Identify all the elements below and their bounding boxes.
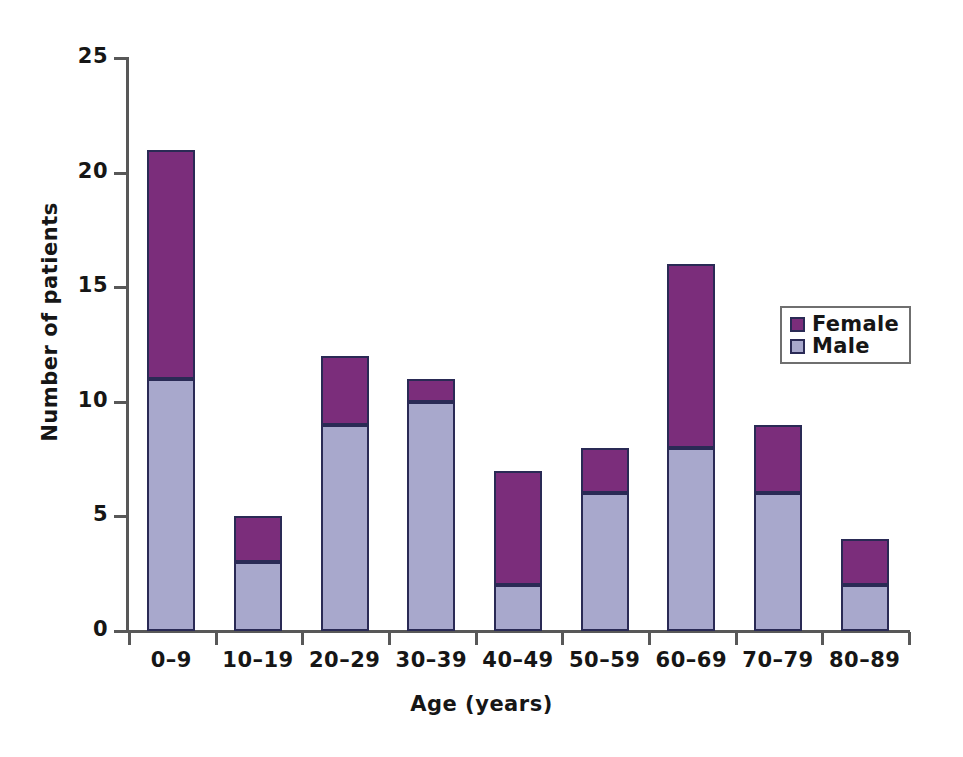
chart-legend: Female Male	[780, 306, 911, 364]
y-tick-10	[114, 401, 127, 404]
x-tick-end	[908, 632, 911, 645]
bar-segment-male	[494, 585, 542, 631]
bar-segment-male	[147, 379, 195, 631]
y-tick-label-0: 0	[60, 617, 108, 641]
y-tick-label-10: 10	[60, 388, 108, 412]
y-tick-25	[114, 57, 127, 60]
y-tick-15	[114, 286, 127, 289]
bar-segment-female	[841, 539, 889, 585]
legend-swatch-female	[790, 317, 805, 332]
bar-segment-male	[234, 562, 282, 631]
legend-label-female: Female	[812, 313, 899, 335]
x-tick-0	[128, 632, 131, 645]
y-tick-label-5: 5	[60, 502, 108, 526]
stacked-bar-chart: 0510152025 0–910–1920–2930–3940–4950–596…	[0, 0, 963, 757]
bar-segment-male	[407, 402, 455, 631]
y-tick-0	[114, 630, 127, 633]
x-tick-7	[735, 632, 738, 645]
y-tick-label-25: 25	[60, 44, 108, 68]
x-tick-label-8: 80–89	[805, 648, 925, 672]
bar-segment-female	[234, 516, 282, 562]
x-axis-title: Age (years)	[0, 692, 963, 716]
x-tick-2	[301, 632, 304, 645]
x-tick-1	[215, 632, 218, 645]
bar-group	[321, 58, 369, 631]
bar-segment-female	[321, 356, 369, 425]
bar-segment-female	[754, 425, 802, 494]
bar-group	[234, 58, 282, 631]
bar-segment-male	[754, 493, 802, 631]
x-tick-3	[388, 632, 391, 645]
bar-group	[407, 58, 455, 631]
legend-entry-female: Female	[790, 313, 899, 335]
bar-segment-female	[147, 150, 195, 379]
bar-segment-female	[494, 471, 542, 586]
legend-swatch-male	[790, 339, 805, 354]
y-tick-5	[114, 515, 127, 518]
bar-segment-female	[667, 264, 715, 447]
bar-segment-male	[667, 448, 715, 631]
bar-segment-female	[407, 379, 455, 402]
bar-group	[147, 58, 195, 631]
y-tick-label-15: 15	[60, 273, 108, 297]
x-tick-8	[821, 632, 824, 645]
y-tick-label-20: 20	[60, 159, 108, 183]
y-axis-title: Number of patients	[38, 122, 62, 522]
bar-group	[494, 58, 542, 631]
bar-segment-female	[581, 448, 629, 494]
bar-segment-male	[321, 425, 369, 631]
x-tick-5	[561, 632, 564, 645]
legend-label-male: Male	[812, 335, 870, 357]
x-tick-6	[648, 632, 651, 645]
legend-entry-male: Male	[790, 335, 899, 357]
y-tick-20	[114, 172, 127, 175]
bar-group	[667, 58, 715, 631]
bar-segment-male	[841, 585, 889, 631]
x-tick-4	[475, 632, 478, 645]
bar-group	[581, 58, 629, 631]
bar-segment-male	[581, 493, 629, 631]
